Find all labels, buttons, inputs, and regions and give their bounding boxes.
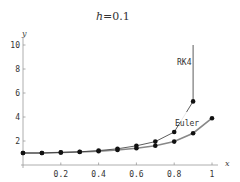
data-point [96,148,101,153]
x-axis-label: x [225,159,230,168]
x-tick-label: 0.4 [91,170,106,179]
y-tick-label: 4 [15,113,20,122]
data-point [153,139,158,144]
data-point [115,147,120,152]
x-tick-label: 1 [210,170,215,179]
data-point [172,130,177,135]
series-label-euler: Euler [175,119,199,128]
title-var: h [96,10,103,23]
data-point [191,131,196,136]
y-tick-label: 8 [15,65,20,74]
data-point [153,144,158,149]
series-rk4 [21,45,196,155]
chart-title: h=0.1 [96,10,130,23]
data-point [191,99,196,104]
title-value: =0.1 [103,10,130,23]
data-point [210,116,215,121]
y-axis-label: y [21,29,27,38]
series-label-rk4: RK4 [177,58,192,67]
data-point [172,139,177,144]
data-point [134,144,139,149]
data-point [59,150,64,155]
y-tick-label: 2 [15,137,20,146]
x-tick-label: 0.2 [54,170,69,179]
data-point [40,151,45,156]
chart: h=0.1 y x 246810 0.20.40.60.81 RK4 Euler [0,0,240,182]
data-point [77,150,82,155]
data-point [21,151,26,156]
y-tick-label: 10 [10,41,20,50]
y-tick-label: 6 [15,89,20,98]
x-tick-label: 0.6 [129,170,144,179]
x-tick-label: 0.8 [167,170,182,179]
